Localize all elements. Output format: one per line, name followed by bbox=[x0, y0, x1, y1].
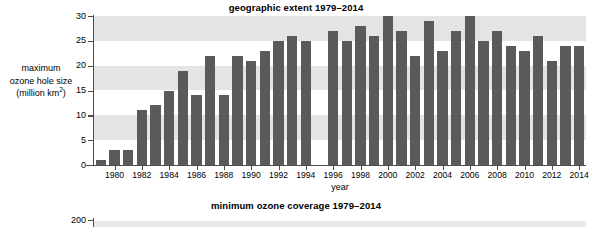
bar bbox=[478, 41, 488, 165]
bar bbox=[369, 36, 379, 165]
x-axis-tick-label: 2002 bbox=[402, 170, 428, 180]
y-axis-tick-mark bbox=[88, 165, 93, 166]
bar bbox=[396, 31, 406, 165]
bar bbox=[232, 56, 242, 165]
x-axis-tick-label: 1980 bbox=[102, 170, 128, 180]
geographic-extent-chart: geographic extent 1979–2014 maximum ozon… bbox=[0, 0, 592, 196]
y-axis-tick-labels: 051015202530 bbox=[62, 0, 86, 196]
bar bbox=[219, 95, 229, 165]
y-axis-tick-mark bbox=[88, 16, 93, 17]
bar bbox=[342, 41, 352, 165]
x-axis-tick-label: 2006 bbox=[457, 170, 483, 180]
x-axis-tick-label: 2012 bbox=[539, 170, 565, 180]
y-axis-label-units: (million km bbox=[16, 88, 59, 98]
bar bbox=[137, 110, 147, 165]
y-axis-tick-label: 5 bbox=[64, 136, 86, 145]
x-axis-label: year bbox=[94, 182, 586, 192]
bar bbox=[301, 41, 311, 165]
y-axis-tick-label: 20 bbox=[64, 61, 86, 70]
bar-series bbox=[94, 16, 586, 165]
x-axis-tick-label: 2004 bbox=[430, 170, 456, 180]
bar bbox=[451, 31, 461, 165]
bar bbox=[424, 21, 434, 165]
bar bbox=[109, 150, 119, 165]
bar bbox=[178, 71, 188, 165]
bar bbox=[465, 16, 475, 165]
y-axis-tick-label: 15 bbox=[64, 86, 86, 95]
bar bbox=[506, 46, 516, 165]
bar bbox=[574, 46, 584, 165]
bar bbox=[560, 46, 570, 165]
x-axis-tick-label: 2000 bbox=[375, 170, 401, 180]
bar bbox=[533, 36, 543, 165]
x-axis-tick-label: 1992 bbox=[266, 170, 292, 180]
bar bbox=[246, 61, 256, 165]
x-axis-line bbox=[86, 165, 586, 166]
bar bbox=[410, 56, 420, 165]
x-axis-tick-label: 1998 bbox=[348, 170, 374, 180]
y-axis-line bbox=[93, 15, 94, 166]
x-axis-tick-label: 1990 bbox=[238, 170, 264, 180]
bar bbox=[287, 36, 297, 165]
x-axis-tick-label: 1988 bbox=[211, 170, 237, 180]
bar bbox=[164, 91, 174, 166]
x-axis-tick-label: 2008 bbox=[484, 170, 510, 180]
y-axis-tick-label: 30 bbox=[64, 12, 86, 21]
y-axis-tick-mark bbox=[88, 115, 93, 116]
bar bbox=[355, 26, 365, 165]
y-axis-tick-mark bbox=[88, 66, 93, 67]
x-axis-tick-label: 2010 bbox=[512, 170, 538, 180]
y-axis-tick-label-200: 200 bbox=[62, 215, 86, 225]
x-axis-tick-label: 1996 bbox=[320, 170, 346, 180]
bar bbox=[547, 61, 557, 165]
x-axis-tick-label: 1982 bbox=[129, 170, 155, 180]
y-axis-tick-label: 0 bbox=[64, 161, 86, 170]
bar bbox=[383, 16, 393, 165]
bar bbox=[492, 31, 502, 165]
bar bbox=[191, 95, 201, 165]
bar bbox=[273, 41, 283, 165]
x-axis-tick-label: 2014 bbox=[566, 170, 592, 180]
y-axis-tick-mark bbox=[88, 41, 93, 42]
plot-area-partial bbox=[94, 221, 586, 227]
bar bbox=[519, 51, 529, 165]
bar bbox=[150, 105, 160, 165]
minimum-ozone-coverage-chart: minimum ozone coverage 1979–2014 200 bbox=[0, 196, 592, 227]
y-axis-tick-label: 10 bbox=[64, 111, 86, 120]
y-axis-tick-label: 25 bbox=[64, 36, 86, 45]
x-axis-tick-label: 1984 bbox=[156, 170, 182, 180]
plot-area bbox=[94, 16, 586, 165]
bar bbox=[260, 51, 270, 165]
y-axis-tick-mark bbox=[88, 91, 93, 92]
x-axis-tick-label: 1986 bbox=[184, 170, 210, 180]
chart-title-geographic-extent: geographic extent 1979–2014 bbox=[0, 2, 592, 13]
bar bbox=[328, 31, 338, 165]
bar bbox=[205, 56, 215, 165]
bar bbox=[123, 150, 133, 165]
y-axis-tick-mark bbox=[88, 140, 93, 141]
x-axis-tick-label: 1994 bbox=[293, 170, 319, 180]
chart-title-minimum-ozone-coverage: minimum ozone coverage 1979–2014 bbox=[0, 200, 592, 211]
bar bbox=[437, 51, 447, 165]
